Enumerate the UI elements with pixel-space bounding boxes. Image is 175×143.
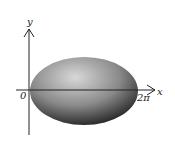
shaded-ellipse [30,57,138,125]
origin-label: 0 [20,90,27,101]
figure: y x 0 2π [0,0,175,143]
x-end-label: 2π [136,92,150,103]
x-axis-label: x [157,86,163,97]
y-axis-label: y [26,16,33,27]
